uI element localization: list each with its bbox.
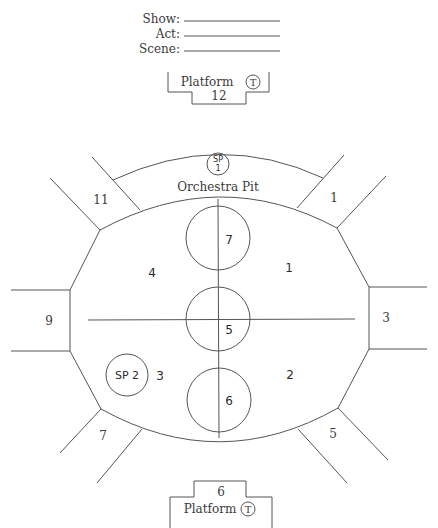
circle-7-label: 7 [225, 233, 233, 247]
zone-3-label: 3 [156, 369, 164, 383]
sp2-circle[interactable]: SP 2 [106, 354, 148, 396]
wing-upper-right[interactable]: 1 [297, 155, 386, 228]
orchestra-pit-label: Orchestra Pit [177, 180, 259, 194]
top-platform-label: Platform [181, 75, 234, 89]
stage-outline [70, 228, 369, 442]
scene-label: Scene: [139, 42, 180, 56]
circle-5-label: 5 [225, 323, 233, 337]
wing-3-label: 3 [382, 311, 390, 325]
bottom-platform-label: Platform [184, 502, 237, 516]
stage-diagram: Show: Act: Scene: Platform T 12 SP 1 Orc… [0, 0, 438, 528]
header-fields: Show: Act: Scene: [139, 12, 280, 56]
show-label: Show: [143, 12, 181, 26]
wing-lower-right[interactable]: 5 [298, 408, 388, 483]
bottom-platform-number: 6 [217, 485, 225, 499]
top-platform[interactable]: Platform T 12 [168, 72, 269, 104]
wing-11-label: 11 [93, 193, 108, 207]
wing-9-label: 9 [45, 314, 53, 328]
wing-7-label: 7 [99, 429, 107, 443]
bottom-platform[interactable]: 6 Platform T [170, 481, 272, 528]
act-label: Act: [155, 27, 180, 41]
zone-4-label: 4 [148, 266, 156, 280]
sp1-line1: SP [213, 155, 223, 164]
wing-1-label: 1 [330, 191, 338, 205]
center-line-vertical [218, 199, 219, 438]
wing-lower-left[interactable]: 7 [60, 409, 142, 483]
bottom-platform-marker: T [245, 504, 252, 515]
wing-5-label: 5 [329, 427, 337, 441]
circle-6-label: 6 [225, 394, 233, 408]
zone-2-label: 2 [286, 368, 294, 382]
top-platform-number: 12 [211, 89, 226, 103]
center-line-horizontal [88, 319, 355, 320]
sp2-label: SP 2 [115, 369, 139, 382]
wing-right[interactable]: 3 [369, 287, 427, 349]
wing-left[interactable]: 9 [11, 290, 70, 351]
wing-upper-left[interactable]: 11 [50, 157, 140, 230]
zone-1-label: 1 [285, 261, 293, 275]
sp1-line2: 1 [215, 164, 220, 173]
top-platform-marker: T [250, 77, 257, 88]
